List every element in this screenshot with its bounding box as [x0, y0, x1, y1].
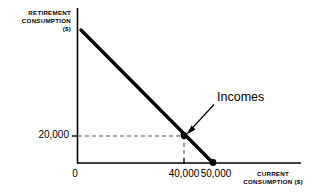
annotation-incomes-label: Incomes [217, 90, 264, 104]
x-tick-label-50000: 50,000 [191, 168, 241, 179]
y-axis-label-line1: RETIREMENT [0, 9, 71, 17]
x-axis-label: CURRENT CONSUMPTION ($) [233, 170, 313, 186]
y-axis-label: RETIREMENT CONSUMPTION ($) [0, 9, 71, 34]
x-axis-label-line2: CONSUMPTION ($) [233, 178, 313, 186]
budget-constraint-line [81, 30, 213, 163]
y-axis-label-line2: CONSUMPTION [0, 17, 71, 25]
data-point-x-intercept [210, 159, 217, 166]
x-axis-label-line1: CURRENT [233, 170, 313, 178]
incomes-arrow-shaft [191, 105, 215, 131]
data-point-incomes [181, 132, 188, 139]
chart-figure: RETIREMENT CONSUMPTION ($) CURRENT CONSU… [0, 0, 313, 196]
y-axis-label-line3: ($) [0, 25, 71, 33]
x-tick-label-origin: 0 [66, 168, 84, 179]
y-tick-label-20000: 20,000 [17, 129, 69, 140]
